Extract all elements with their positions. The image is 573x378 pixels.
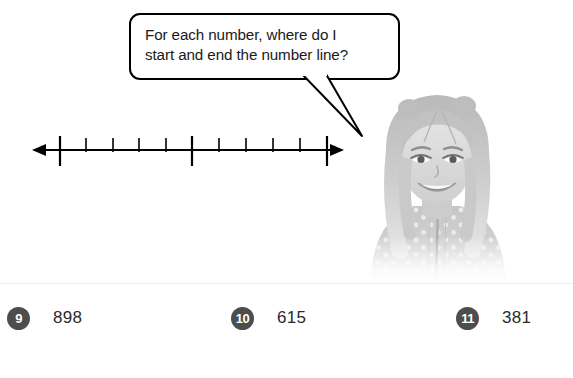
answer-value: 898 [53, 308, 82, 328]
answer-item-10[interactable]: 10 615 [231, 300, 306, 336]
section-divider [0, 283, 573, 284]
answer-row: 9 898 10 615 11 381 [0, 300, 573, 336]
answer-value: 381 [502, 308, 531, 328]
student-photo [352, 86, 522, 282]
answer-item-11[interactable]: 11 381 [456, 300, 531, 336]
answer-number-badge: 9 [7, 307, 30, 330]
answer-value: 615 [277, 308, 306, 328]
worksheet-page: For each number, where do I start and en… [0, 0, 573, 378]
number-line-diagram [28, 128, 348, 174]
speech-bubble: For each number, where do I start and en… [129, 13, 400, 80]
speech-bubble-text: For each number, where do I start and en… [145, 25, 391, 65]
answer-item-9[interactable]: 9 898 [7, 300, 82, 336]
answer-number-badge: 11 [456, 307, 479, 330]
answer-number-badge: 10 [231, 307, 254, 330]
